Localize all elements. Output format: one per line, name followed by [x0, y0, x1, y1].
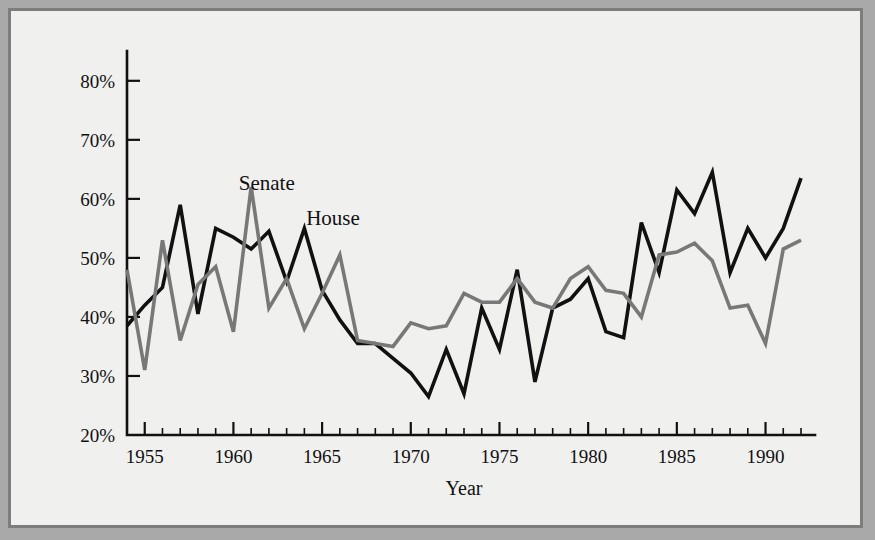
y-tick-label: 40%: [80, 307, 115, 328]
y-tick-label: 60%: [80, 189, 115, 210]
plot-stage: 20%30%40%50%60%70%80%1955196019651970197…: [11, 11, 860, 525]
series-label-house: House: [306, 206, 360, 230]
x-tick-label: 1990: [747, 446, 785, 467]
x-tick-label: 1960: [214, 446, 252, 467]
y-tick-label: 80%: [80, 71, 115, 92]
y-tick-label: 50%: [80, 248, 115, 269]
x-tick-label: 1980: [569, 446, 607, 467]
x-tick-label: 1970: [392, 446, 430, 467]
y-tick-label: 30%: [80, 366, 115, 387]
x-tick-label: 1985: [658, 446, 696, 467]
chart-axes: [127, 51, 815, 435]
series-line-senate: [127, 187, 801, 370]
figure-frame: 20%30%40%50%60%70%80%1955196019651970197…: [8, 8, 863, 528]
x-tick-label: 1955: [126, 446, 164, 467]
series-label-senate: Senate: [239, 171, 295, 195]
line-chart: 20%30%40%50%60%70%80%1955196019651970197…: [11, 11, 860, 525]
x-tick-label: 1965: [303, 446, 341, 467]
y-tick-label: 70%: [80, 130, 115, 151]
y-tick-label: 20%: [80, 425, 115, 446]
x-axis-title: Year: [446, 477, 483, 499]
series-line-house: [127, 172, 801, 396]
x-tick-label: 1975: [480, 446, 518, 467]
